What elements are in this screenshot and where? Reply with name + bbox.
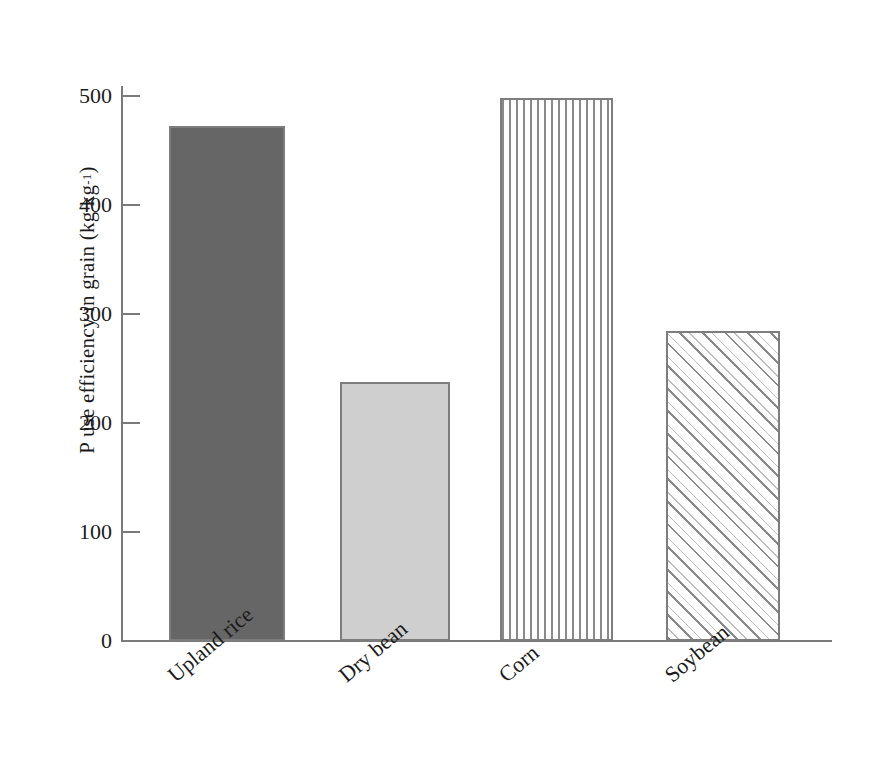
bar-dry-bean[interactable] <box>340 382 450 641</box>
bar-upland-rice[interactable] <box>169 126 285 641</box>
bar-soybean[interactable] <box>666 331 780 641</box>
chart-figure: P use efficiency in grain (kg kg-1) 500 … <box>0 0 874 769</box>
x-tick-label-corn: Corn <box>494 640 544 688</box>
plot-area <box>0 0 874 641</box>
bar-corn[interactable] <box>500 98 613 641</box>
